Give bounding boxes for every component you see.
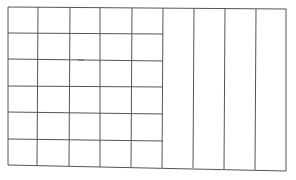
grid-vline bbox=[193, 8, 194, 168]
grid-drawing bbox=[0, 0, 296, 180]
grid-hline bbox=[8, 59, 163, 61]
grid-hline bbox=[8, 139, 163, 141]
grid-vline bbox=[162, 8, 163, 168]
grid-hline bbox=[8, 33, 163, 34]
grid-hline bbox=[8, 86, 163, 87]
grid-vline bbox=[224, 8, 225, 169]
grid-border bbox=[8, 7, 286, 171]
grid-lines bbox=[8, 7, 286, 171]
grid-hline bbox=[8, 112, 163, 114]
grid-vline bbox=[131, 8, 132, 167]
grid-vline bbox=[255, 9, 256, 170]
